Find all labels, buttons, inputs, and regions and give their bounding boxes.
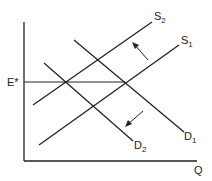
- supply-curve-s2: [33, 22, 152, 105]
- supply-curve-s1: [39, 45, 179, 145]
- price-label: E*: [7, 76, 19, 88]
- label-d1: D1: [184, 130, 197, 145]
- label-s1: S1: [181, 34, 193, 49]
- supply-demand-diagram: E* S2 S1 D1 D2 Q: [0, 0, 212, 181]
- label-d2: D2: [134, 139, 147, 154]
- x-axis-label: Q: [194, 164, 203, 176]
- demand-curve-d2: [44, 63, 133, 141]
- label-s2: S2: [154, 10, 166, 25]
